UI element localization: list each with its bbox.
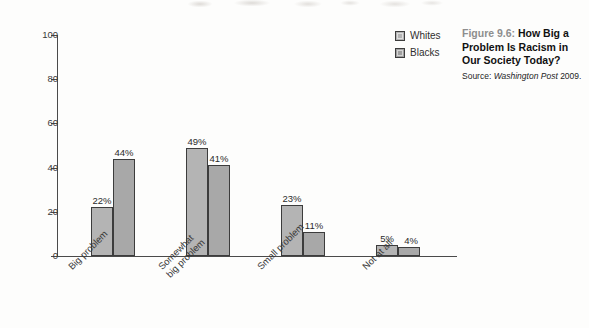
- bar-somewhat-big-problem-blacks[interactable]: [208, 165, 230, 256]
- figure-9-6: Percentage 100 80 60 40 20 0: [0, 0, 589, 328]
- chart-legend: Whites Blacks: [395, 28, 465, 62]
- y-tick-label-60: 60: [12, 117, 58, 128]
- bar-not-at-all-blacks[interactable]: [398, 247, 420, 256]
- y-tick-label-0: 0: [12, 250, 58, 261]
- caption-source-publication: Washington Post: [494, 71, 558, 81]
- bar-label-somewhat-big-problem-whites: 49%: [182, 136, 212, 147]
- caption-source-year: 2009.: [558, 71, 582, 81]
- bar-big-problem-blacks[interactable]: [113, 159, 135, 256]
- y-tick-label-40: 40: [12, 162, 58, 173]
- caption-source-prefix: Source:: [462, 71, 494, 81]
- y-tick-20: 20: [0, 212, 58, 213]
- y-tick-label-100: 100: [12, 29, 58, 40]
- caption-figure-number: Figure 9.6:: [462, 27, 515, 39]
- legend-item-whites[interactable]: Whites: [395, 28, 465, 43]
- bar-label-small-problem-whites: 23%: [277, 193, 307, 204]
- bar-label-somewhat-big-problem-blacks: 41%: [204, 153, 234, 164]
- legend-label-blacks: Blacks: [410, 47, 439, 58]
- bar-label-big-problem-blacks: 44%: [109, 147, 139, 158]
- bars-layer: 22% 44% 49% 41% 23% 11% 5% 4%: [58, 35, 457, 256]
- caption-source: Source: Washington Post 2009.: [462, 71, 589, 82]
- y-tick-40: 40: [0, 168, 58, 169]
- x-axis-line: [57, 256, 457, 257]
- y-tick-80: 80: [0, 79, 58, 80]
- legend-swatch-whites-icon: [395, 31, 405, 41]
- y-tick-100: 100: [0, 35, 58, 36]
- legend-item-blacks[interactable]: Blacks: [395, 45, 465, 60]
- y-tick-label-20: 20: [12, 206, 58, 217]
- bar-label-big-problem-whites: 22%: [87, 195, 117, 206]
- bar-label-not-at-all-blacks: 4%: [396, 235, 426, 246]
- y-tick-label-80: 80: [12, 73, 58, 84]
- legend-label-whites: Whites: [410, 30, 441, 41]
- y-tick-0: 0: [0, 256, 58, 257]
- y-tick-60: 60: [0, 123, 58, 124]
- legend-swatch-blacks-icon: [395, 48, 405, 58]
- caption-title-line: Figure 9.6: How Big a Problem Is Racism …: [462, 27, 589, 68]
- bar-small-problem-blacks[interactable]: [303, 232, 325, 256]
- figure-caption: Figure 9.6: How Big a Problem Is Racism …: [462, 27, 589, 90]
